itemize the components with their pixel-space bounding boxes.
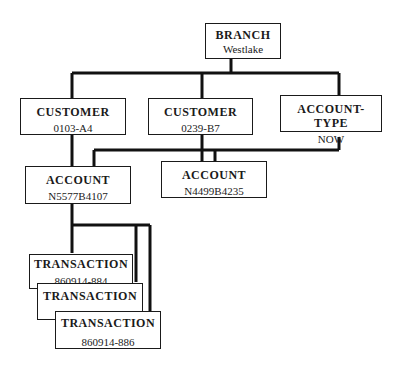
node-customer-2-title: CUSTOMER (149, 105, 252, 119)
node-transaction-3-value: 860914-886 (56, 335, 160, 349)
node-account-type-title: ACCOUNT-TYPE (281, 102, 381, 130)
node-customer-2: CUSTOMER 0239-B7 (148, 98, 253, 135)
node-account-1: ACCOUNT N5577B4107 (25, 166, 131, 204)
node-customer-1-value: 0103-A4 (21, 121, 125, 135)
node-customer-1-title: CUSTOMER (21, 105, 125, 119)
node-account-type: ACCOUNT-TYPE NOW (280, 95, 382, 132)
node-transaction-3: TRANSACTION 860914-886 (55, 311, 161, 349)
node-transaction-3-title: TRANSACTION (56, 316, 160, 330)
node-account-2-value: N4499B4235 (162, 184, 266, 198)
node-transaction-1-title: TRANSACTION (30, 257, 132, 271)
node-account-2: ACCOUNT N4499B4235 (161, 161, 267, 198)
node-customer-1: CUSTOMER 0103-A4 (20, 98, 126, 135)
node-transaction-2-title: TRANSACTION (38, 289, 142, 303)
node-account-type-value: NOW (281, 132, 381, 146)
node-account-2-title: ACCOUNT (162, 168, 266, 182)
node-branch-title: BRANCH (206, 28, 280, 42)
node-account-1-value: N5577B4107 (26, 189, 130, 203)
node-customer-2-value: 0239-B7 (149, 121, 252, 135)
node-account-1-title: ACCOUNT (26, 173, 130, 187)
node-branch: BRANCH Westlake (205, 23, 281, 59)
node-branch-value: Westlake (206, 42, 280, 56)
